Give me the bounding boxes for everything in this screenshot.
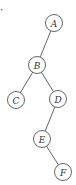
svg-text:E: E [38,135,46,145]
svg-text:F: F [59,168,67,178]
tree-node-b: B [29,57,46,74]
tree-node-d: D [50,91,67,108]
svg-text:D: D [53,95,61,105]
tree-canvas: A B C D E F [0,0,76,185]
svg-text:A: A [50,19,58,29]
tree-node-c: C [8,92,25,109]
tree-node-f: F [55,164,72,181]
tree-node-e: E [34,131,51,148]
svg-text:B: B [33,61,41,71]
svg-text:C: C [13,96,20,106]
tree-node-a: A [46,15,63,32]
